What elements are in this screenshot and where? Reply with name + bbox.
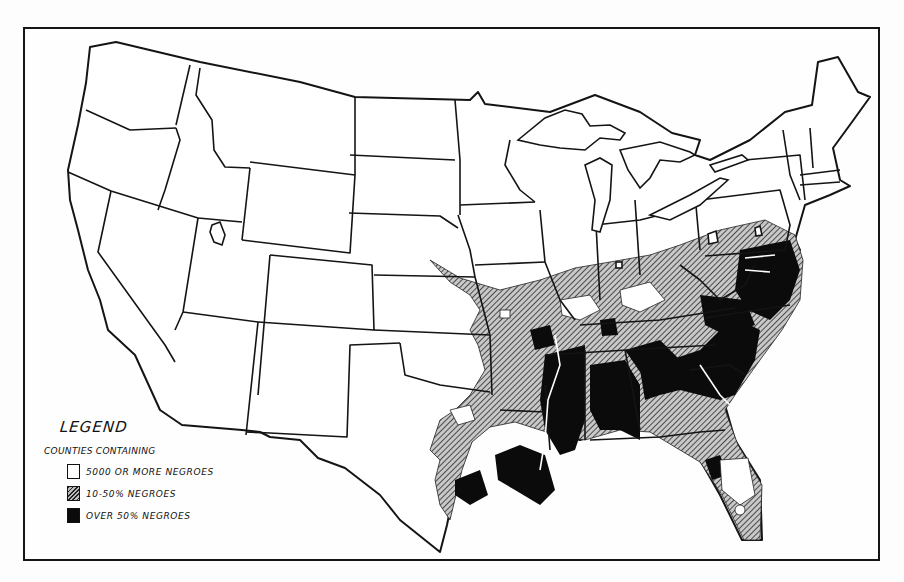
legend-subtitle: COUNTIES CONTAINING [44, 446, 214, 456]
white-swatch-icon [67, 464, 80, 479]
legend-item-10-50-percent: 10-50% NEGROES [67, 486, 214, 501]
hatched-swatch-icon [67, 486, 80, 501]
legend-item-5000-or-more: 5000 OR MORE NEGROES [67, 464, 214, 479]
legend-item-label: 5000 OR MORE NEGROES [86, 467, 214, 477]
black-swatch-icon [67, 508, 80, 523]
legend-item-over-50-percent: OVER 50% NEGROES [67, 508, 214, 523]
legend-title: LEGEND [59, 418, 215, 436]
legend-item-label: OVER 50% NEGROES [86, 511, 191, 521]
map-legend: LEGEND COUNTIES CONTAINING 5000 OR MORE … [44, 418, 214, 530]
legend-item-label: 10-50% NEGROES [86, 489, 176, 499]
